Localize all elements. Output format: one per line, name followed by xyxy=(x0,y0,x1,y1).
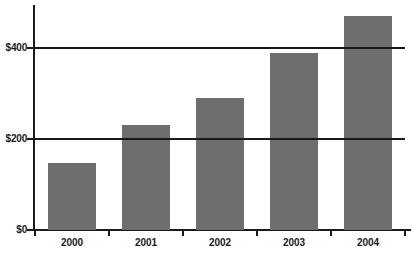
y-axis-tick-label-0: $0 xyxy=(0,225,27,235)
bar-slot-2004 xyxy=(331,0,405,230)
y-axis-tick-0: $0 xyxy=(0,225,27,235)
y-tick-mark-0 xyxy=(27,229,34,231)
x-tick-mark-1 xyxy=(108,231,110,236)
gridline-400 xyxy=(33,47,405,49)
bar-slot-2003 xyxy=(257,0,331,230)
x-tick-mark-2 xyxy=(182,231,184,236)
bar-slot-2000 xyxy=(35,0,109,230)
y-tick-mark-200 xyxy=(27,138,34,140)
x-tick-mark-0 xyxy=(34,231,36,236)
bar-2000[interactable] xyxy=(48,163,96,230)
x-tick-mark-4 xyxy=(330,231,332,236)
x-axis-label-2003: 2003 xyxy=(257,237,331,249)
y-axis-tick-200: $200 xyxy=(0,134,27,144)
x-axis-label-2000: 2000 xyxy=(35,237,109,249)
bar-chart: $400 $200 $0 2000 2001 xyxy=(0,0,412,255)
x-axis-label-2002: 2002 xyxy=(183,237,257,249)
bar-2001[interactable] xyxy=(122,125,170,230)
y-axis-tick-400: $400 xyxy=(0,43,27,53)
bar-slot-2002 xyxy=(183,0,257,230)
x-axis-label-2004: 2004 xyxy=(331,237,405,249)
y-tick-mark-400 xyxy=(27,47,34,49)
x-tick-mark-3 xyxy=(256,231,258,236)
gridline-200 xyxy=(33,138,405,140)
bars-container xyxy=(35,0,407,230)
y-axis-tick-label-200: $200 xyxy=(0,134,27,144)
y-axis-tick-label-400: $400 xyxy=(0,43,27,53)
bar-2003[interactable] xyxy=(270,53,318,230)
bar-slot-2001 xyxy=(109,0,183,230)
x-axis-label-2001: 2001 xyxy=(109,237,183,249)
x-tick-mark-5 xyxy=(404,231,406,236)
bar-2002[interactable] xyxy=(196,98,244,230)
